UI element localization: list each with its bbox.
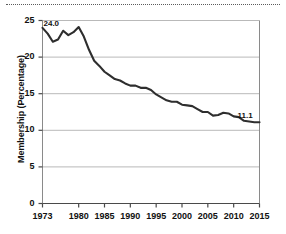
y-tick-label-25: 25 bbox=[13, 15, 35, 25]
y-tick-label-10: 10 bbox=[13, 124, 35, 134]
x-tick-label-2015: 2015 bbox=[240, 211, 280, 221]
data-series-line bbox=[43, 27, 260, 122]
data-label-11-1: 11.1 bbox=[238, 111, 253, 120]
y-tick-label-0: 0 bbox=[13, 198, 35, 208]
y-tick-label-5: 5 bbox=[13, 161, 35, 171]
y-tick-label-15: 15 bbox=[13, 88, 35, 98]
chart-figure: Membership (Percentage) 0510152025 19731… bbox=[0, 0, 286, 234]
y-tick-label-20: 20 bbox=[13, 51, 35, 61]
plot-area bbox=[39, 21, 260, 208]
x-tick-label-1973: 1973 bbox=[23, 211, 63, 221]
data-label-24-0: 24.0 bbox=[44, 19, 60, 28]
